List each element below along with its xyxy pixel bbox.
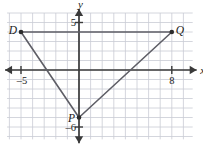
y-tick-label-5: 5 — [71, 17, 76, 28]
x-tick-label-neg5: –5 — [16, 75, 28, 86]
x-axis-arrow-right — [190, 66, 197, 74]
point-marker-p — [77, 115, 82, 120]
x-axis-arrow-left — [5, 66, 12, 74]
axes-layer — [5, 9, 197, 143]
ray-p-d — [21, 32, 79, 118]
y-axis-label: y — [77, 0, 83, 10]
y-axis-arrow-down — [75, 136, 83, 143]
x-axis-label: x — [199, 64, 203, 76]
point-label-q: Q — [176, 24, 185, 36]
points-layer — [19, 30, 174, 120]
point-label-d: D — [8, 24, 18, 36]
segments-layer — [21, 32, 172, 118]
labels-layer: D P Q x y –5 8 5 –6 — [8, 0, 203, 133]
ticks-layer — [21, 23, 172, 128]
coordinate-plane-figure: D P Q x y –5 8 5 –6 — [0, 0, 203, 153]
y-tick-label-neg6: –6 — [65, 122, 77, 133]
point-marker-q — [170, 30, 175, 35]
coordinate-plane-svg: D P Q x y –5 8 5 –6 — [0, 0, 203, 153]
x-tick-label-8: 8 — [169, 75, 174, 86]
point-marker-d — [19, 30, 24, 35]
y-axis-arrow-up — [75, 9, 83, 16]
